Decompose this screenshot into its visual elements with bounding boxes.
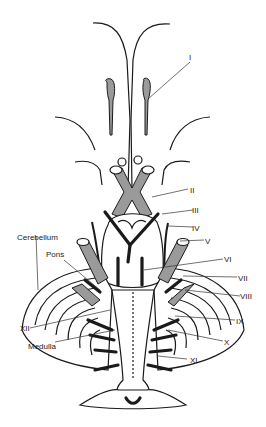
label-facial-VII: VII: [238, 274, 248, 283]
label-trochlear-IV: IV: [192, 224, 200, 233]
label-accessory-XI: XI: [190, 356, 198, 365]
label-trigeminal-V: V: [205, 237, 211, 246]
olfactory-region: [55, 23, 210, 190]
label-optic-II: II: [190, 186, 194, 195]
label-hypoglossal-XII: XII: [20, 324, 30, 333]
medulla: [112, 290, 154, 398]
basal-forebrain: [75, 156, 190, 185]
pons: [102, 214, 164, 288]
label-pons: Pons: [46, 250, 64, 259]
label-cerebellum: Cerebellum: [17, 233, 58, 242]
label-medulla: Medulla: [28, 342, 57, 351]
cranial-nerves-diagram: I II III IV V VI VII VIII IX X XI XII Po…: [0, 0, 266, 427]
label-glossopharyngeal-IX: IX: [236, 317, 244, 326]
label-vestibulocochlear-VIII: VIII: [240, 292, 252, 301]
spinal-cord-section: [80, 390, 186, 409]
label-abducens-VI: VI: [224, 255, 232, 264]
label-oculomotor-III: III: [192, 206, 199, 215]
label-olfactory-I: I: [189, 53, 191, 62]
label-vagus-X: X: [224, 338, 230, 347]
